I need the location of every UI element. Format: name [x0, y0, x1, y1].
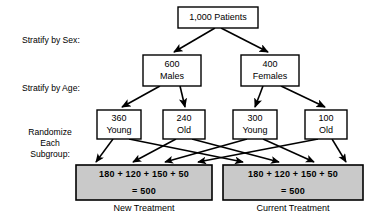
diagram-canvas: Stratify by Sex: Stratify by Age: Random… [0, 0, 380, 220]
node-young-300-label: Young [242, 125, 267, 135]
edges-age-to-arms [96, 139, 346, 162]
edges-sex-to-age [122, 86, 325, 107]
edge-females-to-old [281, 86, 325, 107]
edge-root-to-females [221, 28, 268, 52]
node-males-label: Males [160, 71, 185, 81]
stage-label-randomize-line1: Randomize [28, 127, 72, 137]
node-old-100-count: 100 [318, 113, 333, 123]
arm-current-treatment: 180 + 120 + 150 + 50 = 500 Current Treat… [223, 165, 363, 213]
node-males-count: 600 [164, 59, 179, 69]
node-old-100: 100 Old [305, 110, 347, 139]
node-old-240-label: Old [177, 125, 191, 135]
node-young-300-count: 300 [247, 113, 262, 123]
arm-current-treatment-caption: Current Treatment [256, 203, 330, 213]
stage-label-randomize-line3: Subgroup: [30, 149, 70, 159]
stratified-randomization-diagram: Stratify by Sex: Stratify by Age: Random… [0, 0, 380, 220]
edge-young360-to-new [96, 139, 113, 162]
node-young-360-count: 360 [111, 113, 126, 123]
node-young-360-label: Young [106, 125, 131, 135]
node-females-count: 400 [262, 59, 277, 69]
stage-label-stratify-age: Stratify by Age: [22, 83, 80, 93]
edge-old100-to-new [198, 139, 318, 162]
edge-males-to-old [180, 86, 185, 107]
edge-young360-to-current [129, 139, 243, 162]
node-old-240: 240 Old [163, 110, 205, 139]
node-root-label: 1,000 Patients [189, 12, 247, 22]
edge-old240-to-new [133, 139, 176, 162]
edge-old100-to-current [332, 139, 346, 162]
node-root-patients: 1,000 Patients [178, 7, 258, 28]
arm-current-treatment-sum: 180 + 120 + 150 + 50 [248, 169, 338, 179]
stage-label-stratify-sex: Stratify by Sex: [22, 35, 80, 45]
edges-root-to-sex [174, 28, 268, 52]
arm-new-treatment-caption: New Treatment [113, 203, 175, 213]
node-males: 600 Males [143, 55, 201, 86]
node-females: 400 Females [241, 55, 299, 86]
arm-new-treatment-sum: 180 + 120 + 150 + 50 [99, 169, 189, 179]
node-old-240-count: 240 [176, 113, 191, 123]
edge-males-to-young [122, 86, 160, 107]
node-females-label: Females [253, 71, 288, 81]
edge-young300-to-current [263, 139, 314, 162]
arm-current-treatment-total: = 500 [281, 186, 305, 196]
stage-label-randomize-line2: Each [40, 138, 60, 148]
arm-new-treatment: 180 + 120 + 150 + 50 = 500 New Treatment [76, 165, 212, 213]
node-young-300: 300 Young [233, 110, 277, 139]
node-young-360: 360 Young [97, 110, 141, 139]
edge-root-to-males [174, 28, 215, 52]
arm-new-treatment-total: = 500 [132, 186, 156, 196]
edge-females-to-young [255, 86, 263, 107]
node-old-100-label: Old [319, 125, 333, 135]
